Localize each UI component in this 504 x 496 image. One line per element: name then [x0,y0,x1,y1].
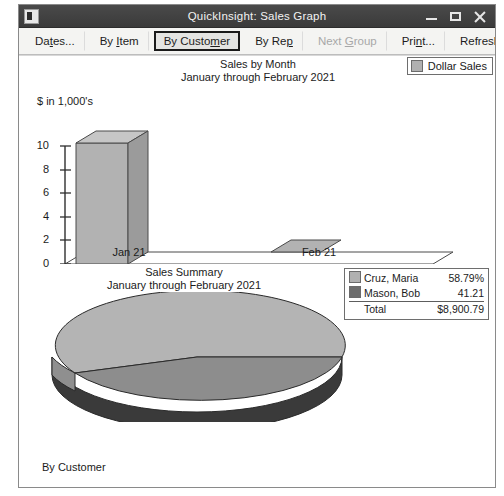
pie-chart-graphic [27,292,357,422]
print-button[interactable]: Print... [392,31,445,51]
legend-row-total: Total $8,900.79 [349,302,484,317]
legend-total-label: Total [361,302,430,317]
x-tick-label-feb-21: Feb 21 [302,246,336,258]
pie-chart-panel: Sales Summary January through February 2… [19,264,496,488]
y-tick-label-2: 2 [27,233,49,245]
y-tick-label-8: 8 [27,163,49,175]
chart-content-area: Sales by Month January through February … [19,55,495,488]
by-rep-button[interactable]: By Rep [245,31,303,51]
app-icon [24,9,39,24]
bar-chart-plot [19,56,496,264]
legend-row-mason-bob: Mason, Bob 41.21 [349,286,484,302]
by-item-button[interactable]: By Item [90,31,149,51]
refresh-button[interactable]: Refresh [450,31,496,51]
legend-name-cruz-maria: Cruz, Maria [361,271,430,286]
window-title: QuickInsight: Sales Graph [19,10,495,22]
minimize-icon[interactable] [425,10,438,23]
dates-button[interactable]: Dates... [25,31,85,51]
toolbar: Dates... By Item By Customer By Rep Next… [19,28,495,55]
legend-value-cruz-maria: 58.79% [430,271,484,286]
legend-row-cruz-maria: Cruz, Maria 58.79% [349,271,484,286]
legend-swatch-cruz-maria [349,271,361,286]
y-tick-label-6: 6 [27,186,49,198]
bar-jan-21-side [128,131,148,264]
legend-total-value: $8,900.79 [430,302,484,317]
title-bar[interactable]: QuickInsight: Sales Graph [19,5,495,28]
pie-chart-footer: By Customer [42,461,106,473]
application-window: QuickInsight: Sales Graph Dates... By It… [18,4,496,488]
x-tick-label-jan-21: Jan 21 [112,246,145,258]
by-customer-button[interactable]: By Customer [154,31,241,51]
pie-chart-subtitle: January through February 2021 [19,279,349,291]
close-icon[interactable] [473,10,486,23]
bar-chart-panel: Sales by Month January through February … [19,56,496,264]
legend-value-mason-bob: 41.21 [430,286,484,302]
maximize-icon[interactable] [449,10,462,23]
y-tick-label-10: 10 [27,139,49,151]
next-group-button: Next Group [308,31,387,51]
pie-chart-legend: Cruz, Maria 58.79% Mason, Bob 41.21 Tota… [344,268,489,320]
legend-name-mason-bob: Mason, Bob [361,286,430,302]
y-tick-label-4: 4 [27,210,49,222]
pie-chart-title: Sales Summary [19,266,349,278]
window-controls [425,10,495,23]
